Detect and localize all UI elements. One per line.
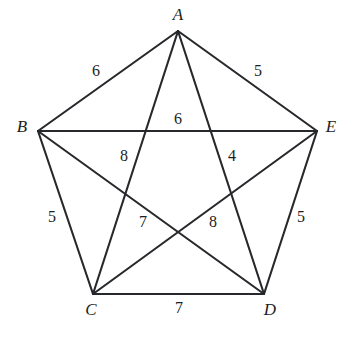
vertex-label-D: D (263, 300, 277, 319)
weight-label-C-E: 8 (209, 213, 217, 230)
graph-figure: A B C D E 6 5 5 7 5 6 8 4 7 8 (0, 0, 343, 355)
weight-label-C-D: 7 (175, 299, 183, 316)
edge-A-B (38, 31, 178, 131)
edge-A-E (178, 31, 317, 131)
vertex-label-A: A (172, 5, 184, 24)
vertex-label-C: C (85, 300, 97, 319)
weight-label-B-D: 7 (139, 213, 147, 230)
weight-label-A-C: 8 (120, 147, 128, 164)
graph-canvas: A B C D E 6 5 5 7 5 6 8 4 7 8 (0, 0, 343, 355)
weight-label-A-E: 5 (254, 62, 262, 79)
weight-label-A-D: 4 (228, 147, 236, 164)
edge-A-C (93, 31, 178, 294)
edge-D-E (264, 131, 317, 294)
weight-label-B-C: 5 (48, 208, 56, 225)
edge-B-C (38, 131, 93, 294)
weight-label-A-B: 6 (92, 62, 100, 79)
vertex-labels: A B C D E (17, 5, 337, 319)
weight-label-B-E: 6 (174, 110, 182, 127)
vertex-label-B: B (17, 117, 28, 136)
edge-A-D (178, 31, 264, 294)
weight-label-D-E: 5 (297, 208, 305, 225)
vertex-label-E: E (325, 117, 337, 136)
